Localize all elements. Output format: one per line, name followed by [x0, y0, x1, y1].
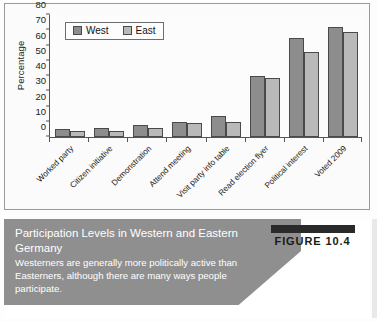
figure-tag-bar-icon — [271, 225, 355, 233]
x-axis-tick-mark — [127, 137, 128, 142]
legend-entry: West — [73, 25, 109, 36]
y-axis-tick-label: 70 — [35, 14, 46, 25]
x-axis-tick-mark — [166, 137, 167, 142]
x-axis-label: Worked party — [35, 144, 75, 184]
caption-title: Participation Levels in Western and East… — [15, 226, 247, 255]
caption-text-block: Participation Levels in Western and East… — [15, 226, 247, 295]
x-axis-tick-mark — [88, 137, 89, 142]
bar-west — [133, 125, 148, 137]
bar-west — [55, 129, 70, 137]
x-axis-tick-cell — [245, 137, 284, 142]
x-axis-tick-mark — [323, 137, 324, 142]
bar-east — [148, 128, 163, 137]
caption-body: Westerners are generally more politicall… — [15, 256, 247, 295]
figure-tag: FIGURE 10.4 — [264, 225, 361, 247]
bar-east — [265, 78, 280, 137]
legend-label: West — [86, 25, 109, 36]
bar-group — [206, 15, 245, 137]
x-axis-ticks — [49, 137, 362, 142]
bar-west — [94, 128, 109, 137]
y-axis-tick-label: 80 — [35, 0, 46, 10]
x-axis-tick-cell — [49, 137, 88, 142]
x-axis-tick-cell — [166, 137, 205, 142]
y-axis-title: Percentage — [15, 21, 26, 111]
bar-group — [245, 15, 284, 137]
bar-west — [172, 122, 187, 137]
bar-east — [304, 52, 319, 137]
y-axis-tick-label: 0 — [41, 121, 46, 132]
bar-west — [211, 116, 226, 137]
legend-swatch-icon — [123, 26, 132, 35]
legend-swatch-icon — [73, 26, 82, 35]
bar-east — [343, 32, 358, 137]
caption-band: Participation Levels in Western and East… — [4, 219, 370, 318]
x-axis-tick-mark — [49, 137, 50, 142]
plot-wrapper: Percentage 01020304050607080 Worked part… — [5, 4, 369, 209]
x-axis-tick-mark — [284, 137, 285, 142]
x-axis-tick-cell — [284, 137, 323, 142]
y-axis-tick-label: 60 — [35, 29, 46, 40]
legend-entry: East — [123, 25, 156, 36]
legend-label: East — [136, 25, 156, 36]
bar-west — [289, 38, 304, 137]
bar-group — [284, 15, 323, 137]
bar-east — [187, 123, 202, 137]
y-axis-tick-label: 30 — [35, 75, 46, 86]
x-tick-mark-end — [361, 137, 362, 142]
x-axis-tick-cell — [323, 137, 362, 142]
x-axis-labels: Worked partyCitizen initiativeDemonstrat… — [49, 143, 362, 207]
x-axis-tick-cell — [88, 137, 127, 142]
bar-west — [250, 76, 265, 137]
y-axis-tick-label: 20 — [35, 90, 46, 101]
x-axis-label-cell: Voted 2009 — [323, 143, 362, 207]
bar-group — [167, 15, 206, 137]
figure-container: Percentage 01020304050607080 Worked part… — [0, 0, 377, 322]
figure-tag-label: FIGURE 10.4 — [264, 235, 361, 247]
y-axis-tick-label: 40 — [35, 60, 46, 71]
x-axis-tick-mark — [245, 137, 246, 142]
x-axis-tick-mark — [206, 137, 207, 142]
bar-group — [323, 15, 362, 137]
page-edge-strip — [372, 219, 377, 318]
y-axis-tick-label: 10 — [35, 105, 46, 116]
x-axis-tick-cell — [206, 137, 245, 142]
bar-west — [328, 27, 343, 137]
chart-panel: Percentage 01020304050607080 Worked part… — [4, 3, 370, 210]
x-axis-tick-cell — [127, 137, 166, 142]
y-axis-tick-label: 50 — [35, 44, 46, 55]
bar-east — [226, 122, 241, 137]
chart-legend: WestEast — [65, 22, 164, 40]
